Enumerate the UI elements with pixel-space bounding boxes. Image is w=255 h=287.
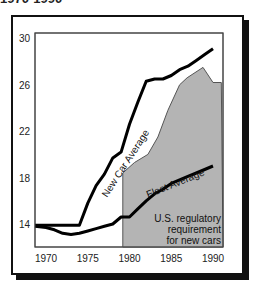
y-tick-label: 22 xyxy=(19,126,31,137)
regulatory-label-line2: requirement xyxy=(168,224,222,235)
y-tick-label: 26 xyxy=(19,80,31,91)
chart-svg: 1418222630 19701975198019851990 New Car … xyxy=(0,0,255,287)
x-tick-label: 1985 xyxy=(160,253,183,264)
x-tick-label: 1990 xyxy=(202,253,225,264)
x-axis-ticks: 19701975198019851990 xyxy=(35,253,225,264)
y-tick-label: 14 xyxy=(19,219,31,230)
y-tick-label: 18 xyxy=(19,173,31,184)
y-tick-label: 30 xyxy=(19,33,31,44)
regulatory-label-line3: for new cars xyxy=(167,235,221,246)
x-tick-label: 1970 xyxy=(35,253,58,264)
y-axis-ticks: 1418222630 xyxy=(19,33,31,230)
x-tick-label: 1975 xyxy=(77,253,100,264)
regulatory-label-line1: U.S. regulatory xyxy=(154,213,221,224)
x-tick-label: 1980 xyxy=(118,253,141,264)
